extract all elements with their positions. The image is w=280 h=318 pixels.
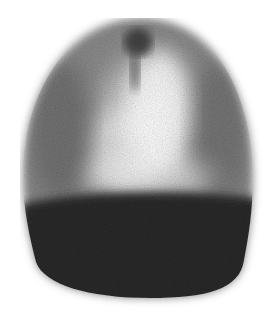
scan-graphic	[0, 0, 280, 318]
scintigraphy-image	[0, 0, 280, 318]
